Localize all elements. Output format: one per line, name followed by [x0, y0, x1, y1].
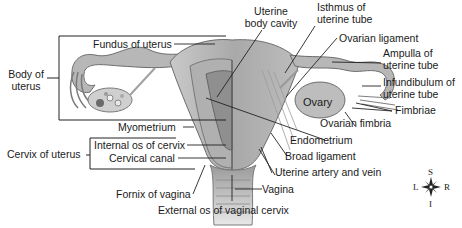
label-uterine-artery-and-vein: Uterine artery and vein	[275, 166, 381, 178]
label-infundibulum-of-uterine-tube: Infundibulum of uterine tube	[383, 76, 455, 100]
label-cervix-of-uterus: Cervix of uterus	[7, 148, 81, 160]
label-ovarian-fimbria: Ovarian fimbria	[320, 117, 391, 129]
label-body-of-uterus: Body of uterus	[5, 68, 47, 92]
label-line: Infundibulum of	[383, 76, 455, 88]
compass-superior: S	[428, 167, 433, 177]
label-external-os-of-vaginal-cervix: External os of vaginal cervix	[158, 204, 289, 216]
label-vagina: Vagina	[262, 183, 294, 195]
label-fornix-of-vagina: Fornix of vagina	[116, 188, 191, 200]
label-broad-ligament: Broad ligament	[285, 150, 356, 162]
left-ovary	[88, 68, 155, 112]
label-line: uterine tube	[383, 59, 438, 71]
vagina	[210, 165, 256, 225]
label-line: Isthmus of	[317, 1, 372, 13]
label-ampulla-of-uterine-tube: Ampulla of uterine tube	[383, 47, 438, 71]
compass-inferior: I	[429, 199, 432, 209]
label-ovary: Ovary	[303, 96, 332, 108]
label-line: uterine tube	[317, 13, 372, 25]
compass-left: L	[413, 182, 419, 192]
compass-rose	[421, 177, 441, 197]
label-fimbriae: Fimbriae	[395, 104, 436, 116]
label-fundus-of-uterus: Fundus of uterus	[93, 38, 172, 50]
label-myometrium: Myometrium	[118, 121, 176, 133]
label-line: Body of	[5, 68, 47, 80]
label-line: uterine tube	[383, 88, 455, 100]
label-internal-os-of-cervix: Internal os of cervix	[94, 139, 185, 151]
label-line: Ampulla of	[383, 47, 438, 59]
label-line: uterus	[5, 80, 47, 92]
label-line: Uterine	[243, 5, 299, 17]
label-uterine-body-cavity: Uterine body cavity	[243, 5, 299, 29]
label-endometrium: Endometrium	[290, 134, 352, 146]
label-ovarian-ligament: Ovarian ligament	[339, 32, 418, 44]
uterus	[170, 40, 300, 175]
compass-right: R	[444, 182, 450, 192]
label-isthmus-of-uterine-tube: Isthmus of uterine tube	[317, 1, 372, 25]
label-cervical-canal: Cervical canal	[109, 152, 175, 164]
label-line: body cavity	[243, 17, 299, 29]
